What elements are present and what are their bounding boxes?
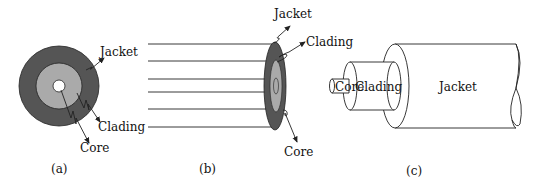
core-end-face	[274, 78, 279, 94]
caption-c: (c)	[406, 164, 422, 178]
optical-fiber-diagram: Jacket Clading Core (a) Jacket Clading C…	[0, 0, 538, 185]
label-jacket-a: Jacket	[98, 45, 138, 59]
panel-a: Jacket Clading Core (a)	[19, 45, 145, 176]
fiber-lines	[148, 44, 272, 127]
core-circle	[53, 80, 65, 92]
jacket-pointer-arrow	[274, 26, 290, 43]
panel-b: Jacket Clading Core (b)	[148, 7, 353, 176]
caption-a: (a)	[51, 162, 68, 176]
label-cladding-c: Clading	[355, 80, 402, 94]
core-pointer-arrow	[283, 110, 297, 142]
label-cladding-a: Clading	[98, 120, 145, 134]
caption-b: (b)	[199, 162, 216, 176]
label-cladding-b: Clading	[306, 35, 353, 49]
panel-c: Core Clading Jacket (c)	[330, 44, 522, 178]
label-core-a: Core	[80, 141, 109, 155]
label-core-b: Core	[284, 145, 313, 159]
label-jacket-b: Jacket	[272, 7, 312, 21]
core-cylinder-face	[330, 79, 335, 93]
label-jacket-c: Jacket	[437, 80, 477, 94]
